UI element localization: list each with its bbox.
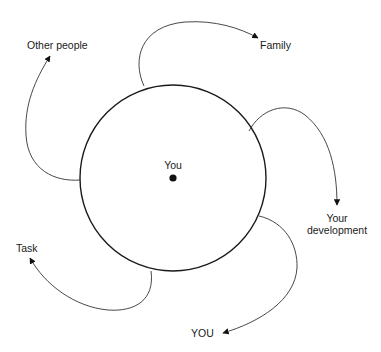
arrow-other-people — [26, 56, 80, 180]
label-family: Family — [260, 39, 292, 51]
arrow-family — [139, 22, 258, 86]
pinwheel-diagram: You Other people Family Your development… — [0, 0, 381, 352]
label-task: Task — [16, 242, 38, 254]
label-other-people: Other people — [27, 39, 88, 51]
center-dot — [169, 174, 176, 181]
label-your-development-line1: Your — [326, 212, 348, 224]
arrow-your-development — [249, 108, 337, 205]
label-you-caps: YOU — [191, 327, 214, 339]
arrow-you — [223, 216, 297, 333]
arrow-task — [30, 258, 152, 310]
label-your-development-line2: development — [307, 224, 367, 236]
center-label: You — [164, 159, 182, 171]
